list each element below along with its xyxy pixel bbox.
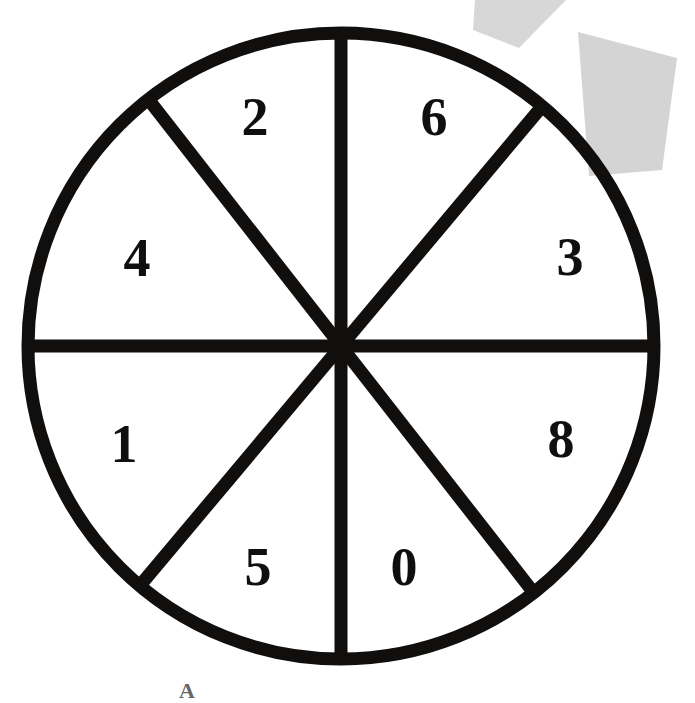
spinner-graphic	[0, 0, 695, 703]
sector-label-5: 5	[228, 540, 288, 594]
sector-label-8: 8	[531, 412, 591, 466]
sector-label-0: 0	[374, 540, 434, 594]
sector-label-1: 1	[94, 417, 154, 471]
sector-label-3: 3	[540, 230, 600, 284]
sector-label-4: 4	[107, 231, 167, 285]
sector-label-6: 6	[404, 90, 464, 144]
spinner-figure: 2 6 3 8 0 5 1 4 A	[0, 0, 695, 703]
sector-label-2: 2	[225, 90, 285, 144]
bottom-mark-glyph: A	[172, 678, 202, 703]
